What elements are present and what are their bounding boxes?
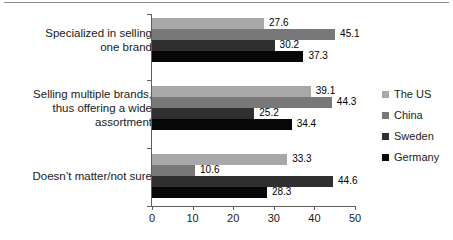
bar-value-label: 39.1: [316, 85, 335, 97]
x-axis-tick-0: [152, 206, 153, 210]
bar-row: 44.3: [152, 97, 355, 108]
x-axis-tick-label-20: 20: [227, 212, 239, 225]
y-axis-tick-2: [147, 148, 152, 149]
bar-value-label: 34.4: [297, 118, 316, 130]
x-axis-line: [151, 206, 355, 207]
bar-value-label: 30.2: [280, 39, 299, 51]
bar-row: 34.4: [152, 119, 355, 130]
x-axis-tick-20: [233, 206, 234, 210]
x-axis-tick-label-30: 30: [268, 212, 280, 225]
bar-row: 37.3: [152, 51, 355, 62]
bar[interactable]: [152, 29, 335, 40]
category-label-line: thus offering a wide: [12, 101, 152, 115]
plot-area: 01020304050 27.645.130.237.339.144.325.2…: [152, 14, 355, 206]
bar-value-label: 27.6: [269, 17, 288, 29]
bar-row: 45.1: [152, 29, 355, 40]
x-axis-tick-50: [355, 206, 356, 210]
category-label-specialized-one-brand: Specialized in sellingone brand: [12, 26, 152, 54]
x-axis-tick-40: [314, 206, 315, 210]
bar-value-label: 44.3: [337, 96, 356, 108]
bar-value-label: 45.1: [340, 28, 359, 40]
legend-item-sweden[interactable]: Sweden: [382, 126, 439, 147]
bar-row: 33.3: [152, 154, 355, 165]
x-axis-tick-label-10: 10: [186, 212, 198, 225]
bar-value-label: 33.3: [292, 153, 311, 165]
legend-swatch-icon-china: [382, 112, 389, 119]
x-axis-tick-10: [193, 206, 194, 210]
x-axis-tick-30: [274, 206, 275, 210]
legend-swatch-icon-sweden: [382, 133, 389, 140]
chart-legend: The US China Sweden Germany: [382, 84, 439, 168]
bar-value-label: 44.6: [338, 175, 357, 187]
bar-group-1: 27.645.130.237.3: [152, 18, 355, 62]
bar-value-label: 10.6: [200, 164, 219, 176]
y-axis-tick-0: [147, 14, 152, 15]
legend-swatch-icon-the-us: [382, 91, 389, 98]
bar[interactable]: [152, 97, 332, 108]
bar[interactable]: [152, 51, 303, 62]
bar-row: 10.6: [152, 165, 355, 176]
bar-chart-figure: Specialized in sellingone brand Selling …: [0, 0, 453, 240]
x-axis-tick-label-50: 50: [349, 212, 361, 225]
bar-value-label: 37.3: [308, 50, 327, 62]
bar-value-label: 28.3: [272, 186, 291, 198]
bar-value-label: 25.2: [259, 107, 278, 119]
top-divider-rule: [4, 2, 449, 3]
bar-row: 39.1: [152, 86, 355, 97]
category-label-line: Doesn’t matter/not sure: [12, 169, 152, 183]
x-axis-tick-label-0: 0: [149, 212, 155, 225]
bar[interactable]: [152, 165, 195, 176]
legend-label-germany: Germany: [394, 151, 439, 164]
bar-group-3: 33.310.644.628.3: [152, 154, 355, 198]
legend-label-the-us: The US: [394, 88, 431, 101]
bar[interactable]: [152, 119, 292, 130]
legend-label-china: China: [394, 109, 423, 122]
bar[interactable]: [152, 187, 267, 198]
bar-row: 44.6: [152, 176, 355, 187]
bar-row: 27.6: [152, 18, 355, 29]
legend-swatch-icon-germany: [382, 154, 389, 161]
legend-item-germany[interactable]: Germany: [382, 147, 439, 168]
bar[interactable]: [152, 40, 275, 51]
bar-group-2: 39.144.325.234.4: [152, 86, 355, 130]
bar[interactable]: [152, 86, 311, 97]
bar-row: 25.2: [152, 108, 355, 119]
bar[interactable]: [152, 176, 333, 187]
x-axis-tick-label-40: 40: [308, 212, 320, 225]
bar[interactable]: [152, 108, 254, 119]
category-label-line: assortment: [12, 115, 152, 129]
legend-label-sweden: Sweden: [394, 130, 434, 143]
category-label-doesnt-matter: Doesn’t matter/not sure: [12, 169, 152, 183]
category-label-multiple-brands: Selling multiple brands,thus offering a …: [12, 87, 152, 129]
category-label-line: Specialized in selling: [12, 26, 152, 40]
category-label-line: one brand: [12, 40, 152, 54]
category-label-line: Selling multiple brands,: [12, 87, 152, 101]
legend-item-china[interactable]: China: [382, 105, 439, 126]
bar[interactable]: [152, 18, 264, 29]
bar-row: 28.3: [152, 187, 355, 198]
y-axis-tick-1: [147, 80, 152, 81]
legend-item-the-us[interactable]: The US: [382, 84, 439, 105]
